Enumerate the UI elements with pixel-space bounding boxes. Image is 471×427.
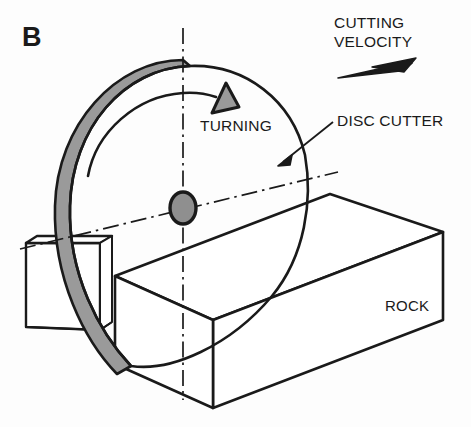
panel-label: B xyxy=(22,22,42,52)
figure-panel-b: B CUTTING VELOCITY TURNING DISC CUTTER R… xyxy=(0,0,471,427)
turning-label: TURNING xyxy=(200,117,272,134)
leader-arrowhead-icon xyxy=(278,155,292,166)
cutting-velocity-label-line1: CUTTING xyxy=(334,14,404,31)
disc-cutter-label: DISC CUTTER xyxy=(337,112,443,129)
disc-hub-icon xyxy=(170,192,196,224)
rock-label: ROCK xyxy=(385,297,429,314)
velocity-dart-arrow-icon xyxy=(338,58,416,78)
rear-stub-right-face xyxy=(100,236,112,330)
disc-cutter-diagram: B CUTTING VELOCITY TURNING DISC CUTTER R… xyxy=(0,0,471,427)
cutting-velocity-label-line2: VELOCITY xyxy=(334,33,412,50)
hub-ellipse xyxy=(170,192,196,224)
